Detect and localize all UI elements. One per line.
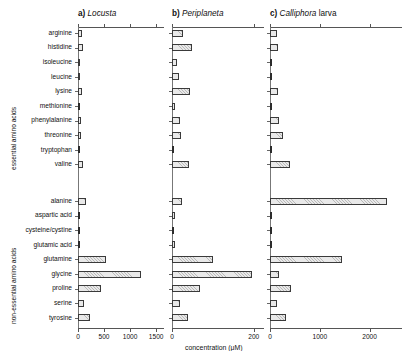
top-tick-locusta-3 [156, 24, 157, 27]
bar-locusta-glutamic-acid [78, 241, 80, 248]
bottom-tick-locusta-1 [104, 329, 105, 332]
panel-species-locusta: Locusta [88, 9, 117, 18]
bar-locusta-lysine [78, 88, 82, 95]
x-tick-label-locusta-3: 1500 [149, 333, 164, 340]
panel-species-suffix-calliphora: larva [319, 9, 337, 18]
panel-periplaneta: 0200 [172, 27, 264, 299]
bar-periplaneta-aspartic-acid [172, 212, 175, 219]
bar-periplaneta-valine [172, 161, 189, 168]
bar-periplaneta-tyrosine [172, 314, 188, 321]
bar-periplaneta-threonine [172, 132, 181, 139]
bar-locusta-cysteine-cystine [78, 227, 80, 234]
bar-calliphora-lysine [270, 88, 278, 95]
bar-calliphora-proline [270, 285, 291, 292]
bar-calliphora-cysteine-cystine [270, 227, 272, 234]
value-baseline-locusta [78, 27, 79, 328]
x-tick-label-calliphora-0: 0 [268, 333, 272, 340]
bottom-tick-calliphora-2 [370, 329, 371, 332]
bar-locusta-valine [78, 161, 83, 168]
bar-locusta-leucine [78, 73, 80, 80]
bar-calliphora-glutamic-acid [270, 241, 272, 248]
bottom-tick-calliphora-1 [320, 329, 321, 332]
bottom-axis-line-periplaneta [172, 328, 264, 329]
bar-locusta-proline [78, 285, 101, 292]
panel-index-calliphora: c) [270, 9, 277, 18]
category-label-alanine: alanine [0, 198, 72, 205]
bar-periplaneta-glutamine [172, 256, 213, 263]
bottom-tick-calliphora-0 [270, 329, 271, 332]
top-tick-locusta-2 [130, 24, 131, 27]
top-tick-locusta-1 [104, 24, 105, 27]
bar-periplaneta-methionine [172, 103, 175, 110]
bar-locusta-glutamine [78, 256, 106, 263]
bottom-tick-periplaneta-0 [172, 329, 173, 332]
bar-calliphora-tryptophan [270, 146, 272, 153]
category-label-arginine: arginine [0, 30, 72, 37]
bar-calliphora-valine [270, 161, 290, 168]
bar-periplaneta-glutamic-acid [172, 241, 175, 248]
category-label-histidine: histidine [0, 44, 72, 51]
panel-title-periplaneta: b) Periplaneta [172, 9, 223, 18]
bar-calliphora-threonine [270, 132, 283, 139]
bar-calliphora-tyrosine [270, 314, 286, 321]
x-tick-label-periplaneta-1: 200 [248, 333, 259, 340]
x-axis-title: concentration (μM) [185, 344, 243, 351]
bar-locusta-histidine [78, 44, 83, 51]
bar-calliphora-serine [270, 300, 277, 307]
bar-calliphora-aspartic-acid [270, 212, 272, 219]
bar-locusta-tryptophan [78, 146, 80, 153]
top-tick-calliphora-2 [370, 24, 371, 27]
top-axis-line-calliphora [270, 27, 402, 28]
bar-periplaneta-alanine [172, 198, 182, 205]
bar-calliphora-glycine [270, 271, 279, 278]
bar-periplaneta-serine [172, 300, 180, 307]
category-label-isoleucine: isoleucine [0, 59, 72, 66]
panel-species-periplaneta: Periplaneta [182, 9, 223, 18]
x-tick-label-calliphora-2: 2000 [362, 333, 377, 340]
bar-locusta-alanine [78, 198, 86, 205]
category-label-lysine: lysine [0, 88, 72, 95]
x-tick-label-locusta-0: 0 [76, 333, 80, 340]
panel-calliphora: 010002000 [270, 27, 402, 299]
bar-calliphora-phenylalanine [270, 117, 279, 124]
bar-locusta-arginine [78, 30, 82, 37]
bar-calliphora-arginine [270, 30, 277, 37]
panel-locusta: 050010001500 [78, 27, 164, 299]
bar-calliphora-alanine [270, 198, 387, 205]
bar-calliphora-histidine [270, 44, 278, 51]
x-tick-label-periplaneta-0: 0 [170, 333, 174, 340]
bar-calliphora-methionine [270, 103, 272, 110]
bottom-axis-line-locusta [78, 328, 164, 329]
panel-title-locusta: a) Locusta [78, 9, 116, 18]
bottom-tick-locusta-0 [78, 329, 79, 332]
panel-species-calliphora: Calliphora [280, 9, 317, 18]
top-tick-calliphora-1 [320, 24, 321, 27]
bar-periplaneta-glycine [172, 271, 252, 278]
panel-index-periplaneta: b) [172, 9, 180, 18]
panel-title-calliphora: c) Calliphora larva [270, 9, 336, 18]
bar-locusta-glycine [78, 271, 141, 278]
bar-periplaneta-phenylalanine [172, 117, 180, 124]
bar-locusta-methionine [78, 103, 80, 110]
bar-locusta-serine [78, 300, 84, 307]
bar-periplaneta-proline [172, 285, 200, 292]
bar-calliphora-leucine [270, 73, 272, 80]
bar-periplaneta-tryptophan [172, 146, 174, 153]
bar-calliphora-isoleucine [270, 59, 272, 66]
panel-index-locusta: a) [78, 9, 85, 18]
category-label-leucine: leucine [0, 74, 72, 81]
bottom-tick-locusta-3 [156, 329, 157, 332]
bar-calliphora-glutamine [270, 256, 342, 263]
bottom-tick-periplaneta-1 [254, 329, 255, 332]
bar-periplaneta-lysine [172, 88, 190, 95]
bottom-axis-line-calliphora [270, 328, 402, 329]
top-axis-line-periplaneta [172, 27, 264, 28]
x-tick-label-calliphora-1: 1000 [312, 333, 327, 340]
category-label-cysteine-cystine: cysteine/cystine [0, 227, 72, 234]
bar-locusta-tyrosine [78, 314, 90, 321]
bar-periplaneta-leucine [172, 73, 179, 80]
x-tick-label-locusta-1: 500 [99, 333, 110, 340]
category-label-aspartic-acid: aspartic acid [0, 212, 72, 219]
bar-locusta-phenylalanine [78, 117, 81, 124]
